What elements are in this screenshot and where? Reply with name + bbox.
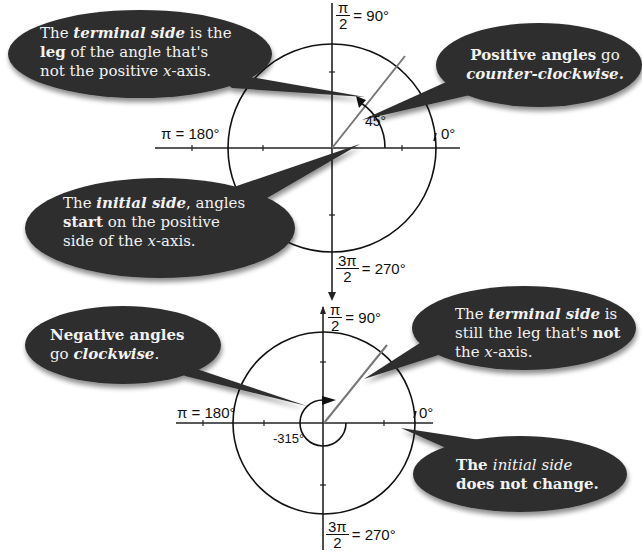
callout-text: The initial side, anglesstart on the pos…: [63, 194, 263, 251]
top-90-numerator: π: [336, 0, 350, 16]
callout-text: The terminal side isstill the leg that's…: [455, 305, 635, 362]
bottom-label-180: π = 180°: [177, 404, 235, 421]
top-90-value: = 90°: [353, 7, 389, 24]
top-270-value: = 270°: [362, 260, 406, 277]
top-label-0: 0°: [441, 125, 455, 142]
bottom-90-numerator: π: [328, 302, 342, 318]
top-90-denominator: 2: [339, 16, 347, 31]
bottom-label-90: π2 = 90°: [328, 302, 381, 333]
top-label-180: π = 180°: [161, 125, 219, 142]
callout-text: Positive angles gocounter-clockwise.: [460, 46, 630, 84]
top-y-axis-arrow: [328, 292, 336, 301]
callout-text: Negative anglesgo clockwise.: [50, 326, 220, 364]
bottom-90-denominator: 2: [331, 318, 339, 333]
bottom-angle-label: -315°: [273, 431, 304, 446]
bottom-y-axis-arrow: [320, 306, 326, 314]
bottom-270-numerator: 3π: [326, 519, 349, 535]
top-label-90: π2 = 90°: [336, 0, 389, 31]
top-terminal-side-ray: [332, 56, 405, 148]
top-label-270: 3π2 = 270°: [336, 253, 406, 284]
bottom-label-270: 3π2 = 270°: [326, 519, 396, 550]
bottom-270-denominator: 2: [333, 535, 341, 550]
top-270-numerator: 3π: [336, 253, 359, 269]
callout-text: The terminal side is theleg of the angle…: [40, 24, 240, 81]
bottom-angle-arrowhead: [322, 396, 336, 405]
bottom-terminal-side-ray: [324, 345, 387, 423]
bottom-270-value: = 270°: [352, 526, 396, 543]
bottom-label-0: 0°: [419, 404, 433, 421]
top-angle-label: 45°: [365, 113, 386, 129]
top-270-denominator: 2: [343, 269, 351, 284]
bottom-90-value: = 90°: [345, 309, 381, 326]
callout-text: The initial sidedoes not change.: [456, 456, 626, 494]
